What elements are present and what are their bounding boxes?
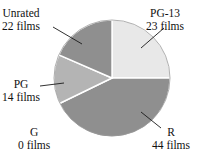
pie-label-unrated-value: 22 films <box>2 20 40 33</box>
pie-label-pg13-name: PG-13 <box>146 7 184 20</box>
pie-label-r-value: 44 films <box>152 139 190 152</box>
pie-label-pg: PG 14 films <box>2 78 40 104</box>
pie-label-unrated-name: Unrated <box>2 7 40 20</box>
pie-label-pg-name: PG <box>2 78 40 91</box>
pie-label-g: G 0 films <box>18 126 50 152</box>
pie-label-r: R 44 films <box>152 126 190 152</box>
pie-label-r-name: R <box>152 126 190 139</box>
pie-chart-figure: Unrated 22 films PG-13 23 films PG 14 fi… <box>0 0 216 164</box>
pie-label-unrated: Unrated 22 films <box>2 7 40 33</box>
pie-label-pg-value: 14 films <box>2 91 40 104</box>
pie-label-pg13: PG-13 23 films <box>146 7 184 33</box>
pie-label-pg13-value: 23 films <box>146 20 184 33</box>
pie-label-g-value: 0 films <box>18 139 50 152</box>
pie-label-g-name: G <box>18 126 50 139</box>
